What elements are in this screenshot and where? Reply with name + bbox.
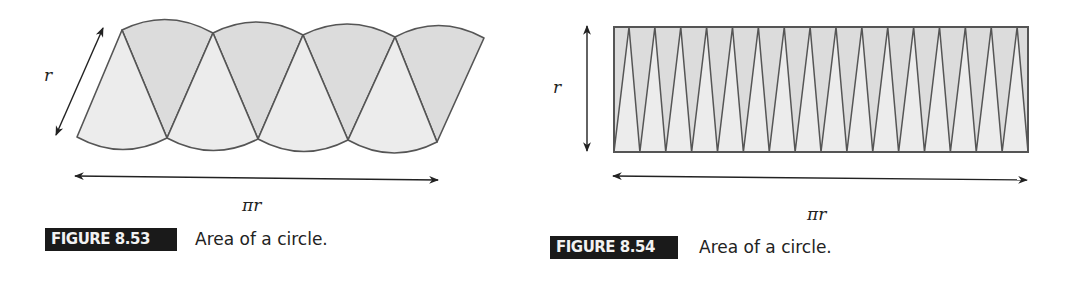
radius-label: r xyxy=(44,65,53,85)
radius-label: r xyxy=(553,77,562,97)
figure-8-53-diagram: r πr xyxy=(44,19,484,215)
length-label: πr xyxy=(806,204,827,224)
length-arrow xyxy=(613,176,1027,180)
sectors-group xyxy=(77,19,484,153)
figure-caption: Area of a circle. xyxy=(195,228,328,251)
length-arrow xyxy=(75,176,438,180)
figure-caption: Area of a circle. xyxy=(699,236,832,259)
figure-label: FIGURE 8.54 xyxy=(550,236,678,259)
figure-label: FIGURE 8.53 xyxy=(45,228,177,251)
sectors-group xyxy=(614,27,1028,152)
figure-8-54-diagram: r πr xyxy=(553,26,1028,224)
length-label: πr xyxy=(241,195,262,215)
